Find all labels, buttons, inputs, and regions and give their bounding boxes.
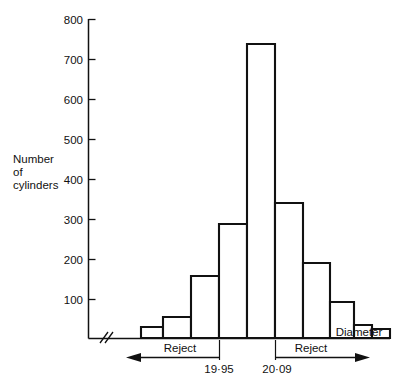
bar-5 bbox=[247, 44, 275, 338]
y-tick-label-600: 600 bbox=[64, 94, 83, 106]
y-axis-title-line-2: of bbox=[13, 166, 23, 178]
bar-6 bbox=[275, 203, 303, 338]
y-axis-title-line-1: Number bbox=[13, 153, 54, 165]
x-marker-label-lower: 19·95 bbox=[204, 363, 233, 375]
y-axis: 800 700 600 500 400 300 200 100 bbox=[64, 14, 96, 339]
y-axis-title: Number of cylinders bbox=[13, 153, 59, 191]
y-tick-label-700: 700 bbox=[64, 54, 83, 66]
y-tick-label-300: 300 bbox=[64, 214, 83, 226]
y-tick-label-500: 500 bbox=[64, 134, 83, 146]
y-tick-label-200: 200 bbox=[64, 254, 83, 266]
reject-right-annotation: Reject bbox=[276, 342, 370, 362]
x-marker-label-upper: 20·09 bbox=[262, 363, 291, 375]
y-axis-title-line-3: cylinders bbox=[13, 179, 59, 191]
reject-left-arrowhead-icon bbox=[126, 353, 141, 362]
bar-1 bbox=[141, 327, 163, 338]
y-tick-label-800: 800 bbox=[64, 14, 83, 26]
y-tick-label-100: 100 bbox=[64, 294, 83, 306]
axis-break-icon bbox=[100, 332, 113, 343]
x-axis-title-label: Diameter bbox=[336, 326, 383, 338]
bar-2 bbox=[163, 317, 191, 338]
histogram-svg: 800 700 600 500 400 300 200 100 Number o… bbox=[0, 0, 397, 386]
x-marker-dividers bbox=[220, 340, 276, 360]
bar-4 bbox=[219, 224, 247, 338]
bar-3 bbox=[191, 276, 219, 338]
x-marker-labels: 19·95 20·09 bbox=[204, 363, 291, 375]
reject-right-arrowhead-icon bbox=[355, 353, 370, 362]
bar-7 bbox=[303, 263, 330, 338]
reject-left-label: Reject bbox=[164, 342, 197, 354]
x-axis-title: Diameter bbox=[336, 326, 383, 338]
reject-right-label: Reject bbox=[295, 342, 328, 354]
reject-left-annotation: Reject bbox=[126, 342, 219, 362]
y-tick-label-400: 400 bbox=[64, 174, 83, 186]
bars-group bbox=[141, 44, 390, 338]
